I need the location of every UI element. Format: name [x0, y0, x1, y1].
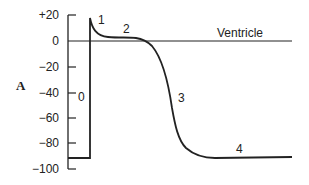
phase-label-4: 4 [236, 142, 243, 156]
phase-label-3: 3 [178, 91, 185, 105]
phase-label-2: 2 [123, 22, 130, 36]
y-tick-label-minus-20: −20 [39, 60, 60, 74]
y-tick-label-minus-40: −40 [39, 86, 60, 100]
y-tick-label-minus-100: −100 [32, 162, 59, 176]
phase-label-1: 1 [98, 13, 105, 27]
y-tick-label-0: 0 [52, 34, 59, 48]
y-tick-label-minus-60: −60 [39, 111, 60, 125]
y-tick-label-20: +20 [39, 8, 60, 22]
action-potential-diagram: +20 0 −20 −40 −60 −80 −100 A Ventricle 0… [0, 0, 309, 185]
curve-label-ventricle: Ventricle [217, 26, 263, 40]
y-axis-ticks [68, 15, 76, 169]
panel-label: A [16, 78, 26, 93]
phase-label-0: 0 [78, 90, 85, 104]
y-tick-label-minus-80: −80 [39, 136, 60, 150]
